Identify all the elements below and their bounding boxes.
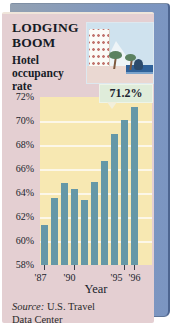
- y-tick-label: 60%: [16, 235, 34, 246]
- bar-92: [91, 182, 98, 265]
- x-tick-mark: [124, 265, 125, 270]
- x-axis-title: Year: [40, 282, 152, 297]
- hotel-building-icon: [89, 29, 110, 66]
- x-tick-mark: [74, 265, 75, 270]
- bar-94: [111, 134, 118, 265]
- y-tick-label: 58%: [16, 259, 34, 270]
- headline-block: LODGING BOOM Hotel occupancy rate: [12, 20, 92, 93]
- source-note: Source: U.S. Travel Data Center: [12, 301, 112, 326]
- y-axis-labels: 72%70%68%66%64%62%60%58%: [2, 97, 37, 265]
- bar-93: [101, 161, 108, 265]
- bar-91: [81, 200, 88, 265]
- y-tick-label: 64%: [16, 187, 34, 198]
- callout-pointer-icon: [107, 102, 117, 109]
- bar-96: [131, 107, 138, 265]
- y-tick-label: 66%: [16, 163, 34, 174]
- y-tick-label: 72%: [16, 91, 34, 102]
- infographic: LODGING BOOM Hotel occupancy rate 71.2%: [0, 0, 174, 331]
- bar-88: [51, 198, 58, 265]
- x-tick-mark: [44, 265, 45, 270]
- palm-trunk: [129, 60, 132, 70]
- palm-fronds: [109, 51, 122, 59]
- y-tick-label: 62%: [16, 211, 34, 222]
- y-tick-label: 68%: [16, 139, 34, 150]
- shore-bush-icon: [134, 59, 143, 70]
- chart-subtitle: Hotel occupancy rate: [12, 54, 76, 93]
- bar-87: [41, 225, 48, 265]
- y-tick-label: 70%: [16, 115, 34, 126]
- beach-hotel-illustration: [86, 22, 154, 84]
- chart-title: LODGING BOOM: [12, 20, 92, 50]
- value-callout: 71.2%: [99, 84, 153, 103]
- sea-foam: [126, 72, 153, 74]
- source-prefix: Source:: [12, 301, 44, 312]
- bar-95: [121, 120, 128, 265]
- x-tick-mark: [134, 265, 135, 270]
- bar-89: [61, 183, 68, 265]
- bar-90: [71, 189, 78, 265]
- card: LODGING BOOM Hotel occupancy rate 71.2%: [2, 12, 154, 323]
- callout-value: 71.2%: [110, 86, 143, 101]
- plot-area: [40, 97, 152, 265]
- palm-tree-icon: [109, 51, 123, 70]
